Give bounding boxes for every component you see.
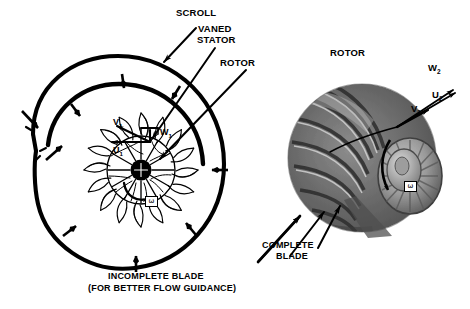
inlet-flow-arrow-2: [46, 146, 62, 160]
label-vector-u1: U1: [113, 145, 123, 157]
rotor-hub-photo: [378, 138, 442, 214]
label-vector-w2: W2: [428, 62, 441, 75]
label-complete-blade-line1: COMPLETE: [262, 241, 314, 251]
label-incomplete-blade-line2: (FOR BETTER FLOW GUIDANCE): [88, 284, 236, 294]
leader-scroll: [164, 28, 196, 62]
label-rotor-left: ROTOR: [220, 58, 255, 68]
leader-rotor-left: [160, 70, 246, 159]
scroll-volute: [26, 56, 224, 269]
cross-section-drawing: [0, 0, 470, 309]
label-incomplete-blade-line1: INCOMPLETE BLADE: [108, 272, 204, 282]
flow-arrows: [22, 74, 228, 272]
label-vaned-stator-line2: STATOR: [197, 35, 236, 45]
label-vector-v2: V2: [411, 103, 421, 116]
label-vaned-stator-line1: VANED: [198, 24, 232, 34]
label-vector-w1: W1: [160, 127, 172, 139]
label-vector-v1: V1: [113, 117, 122, 129]
omega-marker-photo: ω: [404, 181, 417, 192]
omega-marker-cross-section: ω: [145, 196, 158, 207]
label-scroll: SCROLL: [176, 8, 216, 18]
label-complete-blade-line2: BLADE: [276, 252, 308, 262]
label-rotor-right: ROTOR: [330, 48, 365, 58]
turbine-figure: SCROLL VANED STATOR ROTOR ROTOR COMPLETE…: [0, 0, 470, 309]
label-vector-u2: U2: [432, 89, 442, 102]
